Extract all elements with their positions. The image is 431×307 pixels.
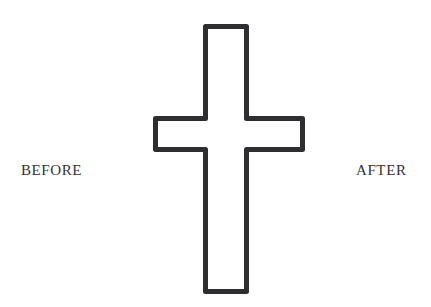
illustration-canvas: Before After	[0, 0, 431, 307]
cross-outline-svg	[0, 0, 431, 307]
cross-figure	[0, 0, 431, 307]
label-after: After	[356, 158, 407, 179]
label-before: Before	[21, 158, 82, 179]
latin-cross-path	[156, 27, 303, 292]
